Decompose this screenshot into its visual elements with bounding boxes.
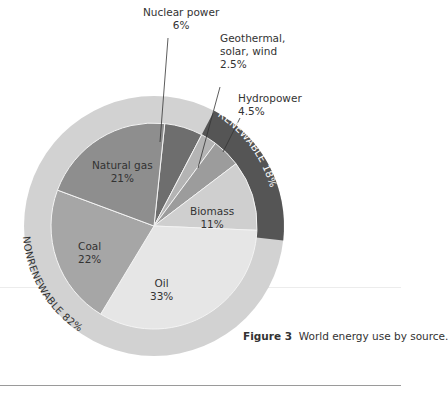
bottom-rule [0,385,401,386]
figure-number: Figure 3 [243,330,292,342]
label-nuclear: Nuclear power6% [143,6,219,32]
label-natural-gas: Natural gas21% [92,159,153,185]
label-coal: Coal22% [78,240,101,266]
label-geothermal: Geothermal,solar, wind2.5% [220,32,285,71]
label-oil: Oil33% [150,277,173,303]
label-biomass: Biomass11% [190,205,234,231]
label-hydropower: Hydropower4.5% [238,92,302,118]
figure-title: World energy use by source. [299,330,448,342]
figure-caption: Figure 3 World energy use by source. [243,330,448,342]
